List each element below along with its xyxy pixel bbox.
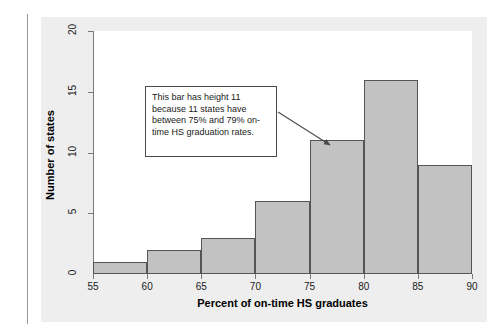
x-tick-label: 85 [403,281,433,292]
histogram-bar [310,140,364,274]
y-tick-label: 5 [67,200,78,224]
x-tick-label: 75 [295,281,325,292]
y-tick-label: 20 [67,18,78,42]
x-tick [93,274,94,279]
y-tick-label: 15 [67,78,78,102]
x-tick-label: 90 [457,281,487,292]
histogram-bar [147,250,201,274]
x-tick-label: 60 [132,281,162,292]
x-tick [255,274,256,279]
x-tick [364,274,365,279]
page-margin-rule [27,14,28,324]
x-tick-label: 70 [240,281,270,292]
histogram-bar [201,238,255,274]
x-tick-label: 55 [78,281,108,292]
histogram-bar [364,80,418,274]
x-axis-title: Percent of on-time HS graduates [93,297,472,309]
x-tick [310,274,311,279]
histogram-bar [418,165,472,274]
histogram-bar [255,201,309,274]
y-axis-title: Number of states [44,100,56,210]
x-tick-label: 65 [186,281,216,292]
x-tick [418,274,419,279]
x-tick-label: 80 [349,281,379,292]
x-tick [472,274,473,279]
x-tick [201,274,202,279]
x-tick [147,274,148,279]
histogram-bar [93,262,147,274]
y-tick-label: 0 [67,261,78,285]
y-tick-label: 10 [67,139,78,163]
annotation-callout: This bar has height 11 because 11 states… [145,86,277,157]
